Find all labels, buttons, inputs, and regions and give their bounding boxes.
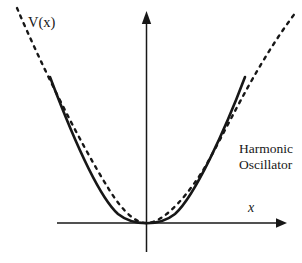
x-axis [57, 218, 287, 228]
anharmonic-potential-curve [17, 8, 296, 223]
harmonic-oscillator-curve [50, 77, 245, 223]
potential-energy-figure: V(x) x Harmonic Oscillator [0, 0, 302, 263]
harmonic-oscillator-label-line1: Harmonic [239, 141, 293, 157]
harmonic-oscillator-label-line2: Oscillator [239, 157, 293, 173]
x-axis-arrowhead-icon [276, 218, 287, 228]
y-axis-arrowhead-icon [142, 11, 151, 24]
y-axis-label: V(x) [28, 14, 55, 31]
y-axis [142, 11, 151, 252]
x-axis-label: x [248, 200, 254, 217]
plot-canvas [0, 0, 302, 263]
harmonic-oscillator-label: Harmonic Oscillator [239, 141, 293, 173]
